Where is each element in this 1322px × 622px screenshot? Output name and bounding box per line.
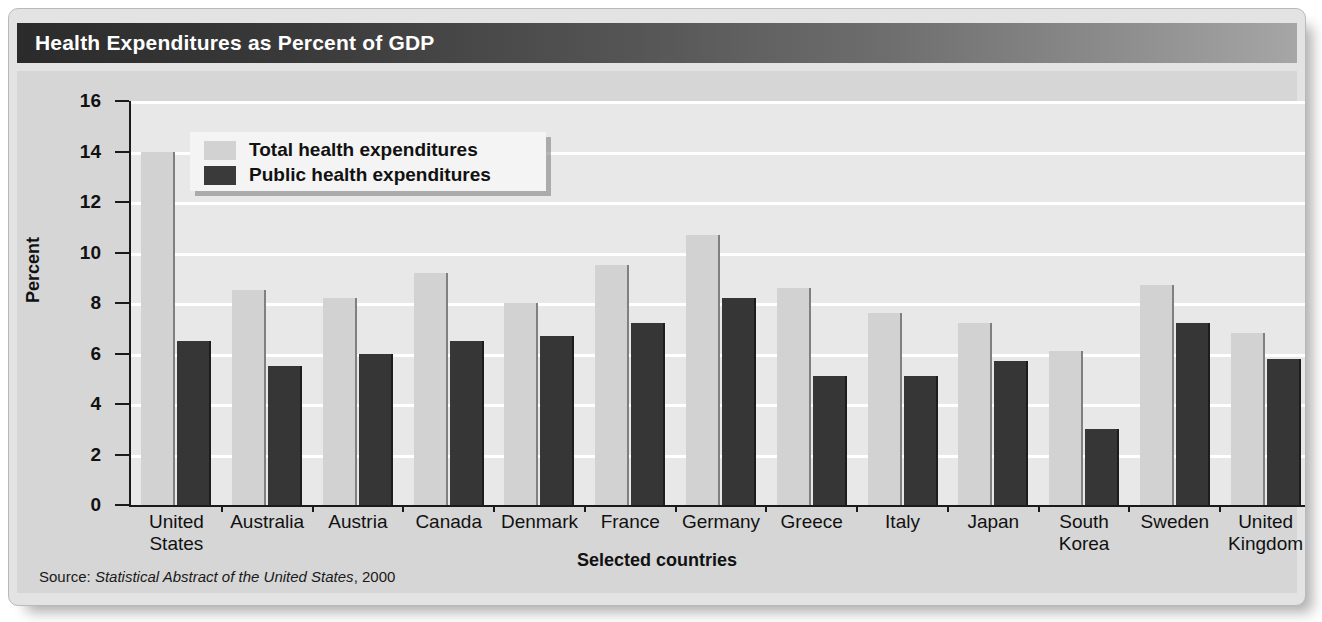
y-axis-title: Percent	[23, 237, 44, 303]
x-axis-tick	[856, 505, 858, 512]
bar-public	[904, 376, 938, 505]
x-axis-tick	[493, 505, 495, 512]
bar-group	[766, 101, 857, 505]
bar-group	[1129, 101, 1220, 505]
page-title: Health Expenditures as Percent of GDP	[35, 31, 435, 55]
legend-swatch-public-icon	[204, 166, 236, 185]
x-axis-tick	[765, 505, 767, 512]
bar-public	[359, 354, 393, 506]
bar-total	[686, 235, 720, 505]
bar-public	[1085, 429, 1119, 505]
source-note: Source: Statistical Abstract of the Unit…	[39, 568, 395, 585]
bar-total	[958, 323, 992, 505]
x-axis-tick	[1128, 505, 1130, 512]
y-axis-tick-label: 0	[41, 494, 101, 516]
bar-group	[585, 101, 676, 505]
y-axis-tick-label: 2	[41, 444, 101, 466]
bar-public	[450, 341, 484, 505]
y-axis-tick-label: 12	[41, 191, 101, 213]
bar-public	[722, 298, 756, 505]
bar-group	[1039, 101, 1130, 505]
bar-total	[1140, 285, 1174, 505]
bar-total	[1049, 351, 1083, 505]
bar-public	[813, 376, 847, 505]
bar-group	[676, 101, 767, 505]
bar-total	[323, 298, 357, 505]
bar-public	[268, 366, 302, 505]
figure-card: Health Expenditures as Percent of GDP 02…	[8, 8, 1306, 606]
legend-item-total: Total health expenditures	[204, 139, 478, 161]
bar-total	[868, 313, 902, 505]
bar-group	[1220, 101, 1306, 505]
y-axis-tick-label: 14	[41, 141, 101, 163]
x-axis-tick	[402, 505, 404, 512]
y-axis-tick	[115, 403, 129, 405]
y-axis-tick	[115, 151, 129, 153]
y-axis-tick	[115, 353, 129, 355]
y-axis-tick-label: 8	[41, 292, 101, 314]
y-axis-tick	[115, 302, 129, 304]
bar-group	[948, 101, 1039, 505]
source-year: , 2000	[354, 568, 396, 585]
bar-public	[1267, 359, 1301, 505]
x-axis-tick	[675, 505, 677, 512]
bar-public	[994, 361, 1028, 505]
title-bar: Health Expenditures as Percent of GDP	[17, 23, 1297, 63]
bar-total	[504, 303, 538, 505]
chart-legend: Total health expenditures Public health …	[190, 132, 546, 191]
y-axis-tick-label: 16	[41, 90, 101, 112]
x-axis-tick-label-line: United	[1206, 511, 1306, 533]
source-publication: Statistical Abstract of the United State…	[95, 568, 354, 585]
bar-total	[232, 290, 266, 505]
y-axis-tick-label: 10	[41, 242, 101, 264]
x-axis-tick	[221, 505, 223, 512]
legend-label-total: Total health expenditures	[249, 139, 478, 161]
bar-total	[1231, 333, 1265, 505]
x-axis-tick	[947, 505, 949, 512]
y-axis-tick-label: 4	[41, 393, 101, 415]
y-axis-tick	[115, 454, 129, 456]
bar-public	[177, 341, 211, 505]
chart-area: 0246810121416 Percent UnitedStatesAustra…	[17, 71, 1297, 593]
bar-total	[595, 265, 629, 505]
y-axis-tick	[115, 504, 129, 506]
y-axis-tick	[115, 252, 129, 254]
bar-group	[857, 101, 948, 505]
x-axis-tick	[1219, 505, 1221, 512]
y-axis-tick	[115, 201, 129, 203]
bar-public	[540, 336, 574, 505]
x-axis-tick	[312, 505, 314, 512]
legend-label-public: Public health expenditures	[249, 164, 491, 186]
bar-public	[631, 323, 665, 505]
x-axis-tick	[584, 505, 586, 512]
legend-item-public: Public health expenditures	[204, 164, 491, 186]
legend-swatch-total-icon	[204, 141, 236, 160]
y-axis-tick-label: 6	[41, 343, 101, 365]
x-axis-tick-label: UnitedKingdom	[1206, 511, 1306, 555]
bar-total	[141, 152, 175, 506]
x-axis-tick	[1038, 505, 1040, 512]
bar-total	[414, 273, 448, 505]
bar-total	[777, 288, 811, 505]
source-prefix: Source:	[39, 568, 91, 585]
y-axis-tick	[115, 100, 129, 102]
bar-public	[1176, 323, 1210, 505]
